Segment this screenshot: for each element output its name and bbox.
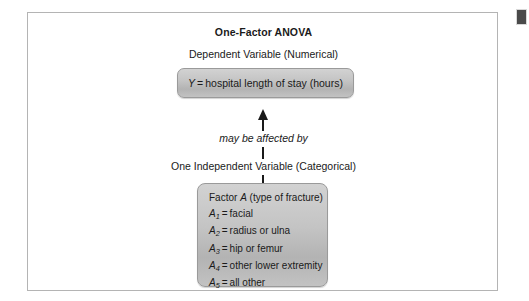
factor-level-subscript: 3	[216, 247, 220, 256]
figure-canvas: One-Factor ANOVA Dependent Variable (Num…	[0, 0, 529, 301]
factor-level-symbol: A	[209, 260, 216, 271]
y-equals: =	[195, 77, 205, 89]
relationship-label: may be affected by	[28, 133, 499, 145]
factor-level-row: A2=radius or ulna	[209, 223, 323, 240]
factor-level-symbol: A	[209, 225, 216, 236]
factor-level-label: hip or femur	[230, 243, 283, 254]
y-symbol: Y	[188, 77, 195, 89]
factor-heading-suffix: (type of fracture)	[250, 192, 323, 203]
figure-frame: One-Factor ANOVA Dependent Variable (Num…	[27, 12, 498, 291]
independent-variable-label: One Independent Variable (Categorical)	[28, 161, 499, 173]
factor-heading-prefix: Factor	[209, 192, 237, 203]
factor-level-equals: =	[220, 208, 230, 219]
factor-level-subscript: 2	[216, 229, 220, 238]
dependent-variable-box: Y=hospital length of stay (hours)	[177, 68, 354, 98]
connector-segment-top	[262, 120, 264, 131]
factor-level-list: Factor A (type of fracture) A1=facial A2…	[209, 190, 323, 292]
dependent-variable-label: Dependent Variable (Numerical)	[28, 49, 499, 61]
factor-level-subscript: 4	[216, 264, 220, 273]
factor-heading-symbol: A	[240, 192, 247, 203]
factor-level-equals: =	[220, 243, 230, 254]
factor-level-equals: =	[220, 260, 230, 271]
factor-heading: Factor A (type of fracture)	[209, 190, 323, 206]
factor-level-subscript: 1	[216, 212, 220, 221]
factor-level-label: radius or ulna	[230, 225, 291, 236]
factor-level-subscript: 5	[216, 281, 220, 290]
factor-box: Factor A (type of fracture) A1=facial A2…	[197, 183, 328, 287]
upward-arrowhead-icon	[258, 109, 268, 120]
factor-level-label: other lower extremity	[230, 260, 323, 271]
factor-level-row: A3=hip or femur	[209, 241, 323, 258]
factor-level-row: A5=all other	[209, 275, 323, 292]
connector-segment-middle	[262, 147, 264, 159]
factor-level-row: A4=other lower extremity	[209, 258, 323, 275]
factor-level-label: all other	[230, 277, 266, 288]
factor-level-row: A1=facial	[209, 206, 323, 223]
corner-marker-block	[516, 9, 527, 25]
y-description: hospital length of stay (hours)	[205, 77, 343, 89]
factor-level-symbol: A	[209, 208, 216, 219]
factor-level-symbol: A	[209, 277, 216, 288]
dependent-variable-box-text: Y=hospital length of stay (hours)	[178, 77, 353, 89]
figure-title: One-Factor ANOVA	[28, 27, 499, 39]
factor-level-equals: =	[220, 277, 230, 288]
factor-level-equals: =	[220, 225, 230, 236]
factor-level-label: facial	[230, 208, 253, 219]
factor-level-symbol: A	[209, 243, 216, 254]
